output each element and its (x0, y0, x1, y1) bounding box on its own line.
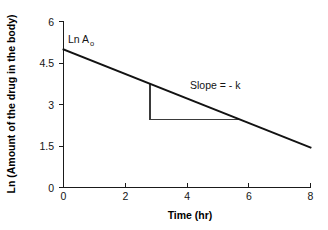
y-tick-label-3: 3 (48, 99, 54, 111)
chart-container: 6 4.5 3 1.5 0 0 2 4 6 8 Ln Ao Slope = - … (0, 0, 328, 230)
x-tick-label-0: 0 (61, 190, 67, 202)
intercept-label-subscript: o (90, 39, 94, 48)
x-tick-label-4: 4 (184, 190, 190, 202)
y-tick-label-0: 0 (48, 182, 54, 194)
x-axis-title: Time (hr) (168, 209, 213, 221)
intercept-label-text: Ln A (68, 33, 89, 45)
y-tick-label-1_5: 1.5 (39, 140, 54, 152)
x-tick-label-2: 2 (122, 190, 128, 202)
x-tick-label-6: 6 (246, 190, 252, 202)
y-tick-label-6: 6 (48, 16, 54, 28)
data-line-series-0 (64, 50, 311, 148)
y-tick-label-4_5: 4.5 (39, 57, 54, 69)
semi-log-drug-elimination-chart: 6 4.5 3 1.5 0 0 2 4 6 8 Ln Ao Slope = - … (0, 0, 328, 230)
x-tick-label-8: 8 (308, 190, 314, 202)
intercept-label: Ln Ao (68, 33, 94, 48)
slope-label: Slope = - k (190, 79, 241, 91)
y-axis-title: Ln (Amount of the drug in the body) (5, 14, 17, 193)
